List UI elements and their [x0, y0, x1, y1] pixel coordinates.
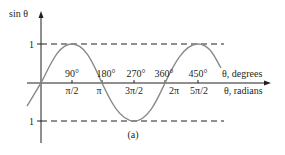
- x-axis-label-radians: θ, radians: [224, 85, 263, 96]
- x-degree-label-270: 270°: [127, 68, 146, 79]
- x-degree-label-450: 450°: [189, 68, 208, 79]
- x-radian-label-pi: π: [96, 85, 101, 96]
- x-axis-label-degrees: θ, degrees: [222, 68, 262, 79]
- x-degree-label-360: 360°: [155, 68, 174, 79]
- x-radian-label-5pi-2: 5π/2: [190, 85, 208, 96]
- sine-chart: sin θ 1 1 90° 180° 270° 360° 450° θ, deg…: [0, 0, 285, 155]
- y-axis-label: sin θ: [9, 8, 28, 19]
- figure-caption: (a): [127, 129, 138, 141]
- x-degree-label-180: 180°: [97, 68, 116, 79]
- x-degree-label-90: 90°: [65, 68, 79, 79]
- x-radian-label-pi-2: π/2: [66, 85, 79, 96]
- x-axis-arrow-icon: [264, 81, 271, 86]
- y-axis-arrow-icon: [39, 11, 44, 18]
- x-radian-label-3pi-2: 3π/2: [125, 85, 143, 96]
- y-tick-label-plus-one: 1: [29, 39, 34, 50]
- x-radian-label-2pi: 2π: [169, 85, 179, 96]
- y-tick-label-minus-one: 1: [29, 116, 34, 127]
